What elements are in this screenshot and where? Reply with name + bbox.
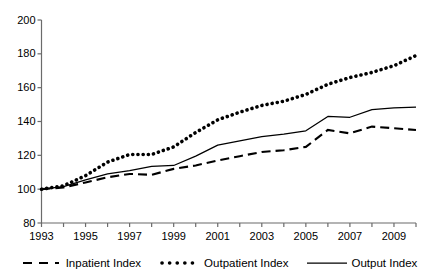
series-line-inpatient <box>42 127 417 190</box>
dotted-line-swatch <box>159 258 199 268</box>
legend-item-outpatient-index: Outpatient Index <box>159 257 288 269</box>
x-tick-label: 2009 <box>372 231 416 242</box>
legend-label: Inpatient Index <box>66 257 141 269</box>
x-tick-label: 2005 <box>284 231 328 242</box>
x-tick-label: 2001 <box>196 231 240 242</box>
x-tick-label: 1993 <box>20 231 64 242</box>
x-axis-ticks <box>42 223 417 227</box>
chart-legend: Inpatient IndexOutpatient IndexOutput In… <box>0 253 438 273</box>
series-layer <box>42 56 417 190</box>
dashed-line-swatch <box>21 258 61 268</box>
y-tick-label: 80 <box>6 218 36 229</box>
y-tick-label: 140 <box>6 116 36 127</box>
line-chart: 80100120140160180200 1993199519971999200… <box>0 0 438 279</box>
y-tick-label: 160 <box>6 82 36 93</box>
y-tick-label: 120 <box>6 150 36 161</box>
axis-lines <box>42 20 417 223</box>
y-tick-label: 100 <box>6 184 36 195</box>
x-tick-label: 1999 <box>152 231 196 242</box>
x-tick-label: 2003 <box>240 231 284 242</box>
series-line-output <box>42 107 417 189</box>
legend-label: Output Index <box>352 257 418 269</box>
y-tick-label: 180 <box>6 48 36 59</box>
solid-line-swatch <box>307 258 347 268</box>
legend-item-output-index: Output Index <box>307 257 418 269</box>
y-tick-label: 200 <box>6 15 36 26</box>
legend-label: Outpatient Index <box>204 257 288 269</box>
x-tick-label: 2007 <box>328 231 372 242</box>
series-line-outpatient <box>42 56 417 190</box>
x-tick-label: 1997 <box>108 231 152 242</box>
x-tick-label: 1995 <box>64 231 108 242</box>
legend-item-inpatient-index: Inpatient Index <box>21 257 141 269</box>
